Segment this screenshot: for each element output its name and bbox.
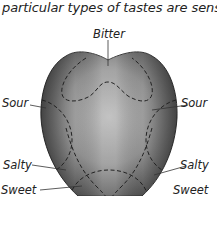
label-salty-right: Salty <box>180 158 209 172</box>
label-sour-left: Sour <box>2 96 28 110</box>
label-sour-right: Sour <box>181 96 207 110</box>
label-bitter: Bitter <box>93 27 125 41</box>
label-salty-left: Salty <box>3 158 32 172</box>
label-sweet-left: Sweet <box>1 183 36 196</box>
label-sweet-right: Sweet <box>173 183 208 196</box>
